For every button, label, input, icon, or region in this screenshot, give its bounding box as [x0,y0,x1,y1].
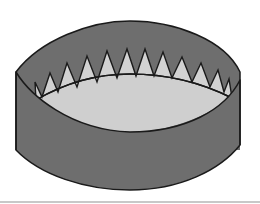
ring-diagram [0,0,260,204]
bottom-rule [0,201,260,203]
